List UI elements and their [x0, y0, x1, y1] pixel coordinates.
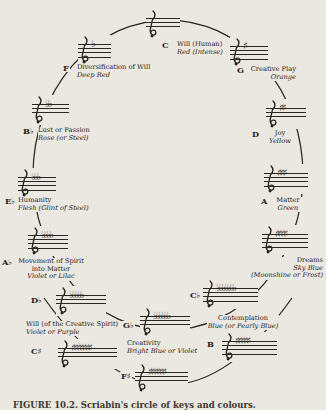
- key-letter-b-flat: B♭: [22, 127, 35, 135]
- key-signature-f-sharp: ♯♯♯♯♯♯: [148, 367, 165, 377]
- label-b-flat: Lust or Passion Rose (or Steel): [38, 127, 90, 142]
- staff-d-flat: ♭♭♭♭♭: [56, 286, 106, 316]
- key-letter-f: F: [62, 64, 70, 72]
- staff-a: ♯♯♯: [264, 164, 308, 194]
- staff-lines: [266, 108, 306, 122]
- label-f: Diversification of Will Deep Red: [77, 64, 150, 79]
- staff-e-flat: ♭♭♭: [18, 168, 56, 198]
- staff-lines: [146, 18, 180, 32]
- key-signature-a-flat: ♭♭♭♭: [41, 230, 52, 240]
- staff-f-sharp: ♯♯♯♯♯♯: [135, 363, 188, 393]
- staff-g-flat: ♭♭♭♭♭♭: [140, 307, 190, 337]
- key-letter-d-flat: D♭: [30, 296, 43, 304]
- key-signature-b: ♯♯♯♯♯: [235, 336, 249, 346]
- staff-c: [146, 9, 180, 39]
- key-signature-f: ♭: [91, 39, 94, 49]
- staff-c-flat: ♭♭♭♭♭♭♭: [203, 279, 258, 309]
- key-signature-b-flat: ♭♭: [45, 99, 50, 109]
- key-signature-c-sharp: ♯♯♯♯♯♯♯: [71, 343, 91, 353]
- key-letter-c: C: [161, 41, 170, 49]
- color-text: Orange: [250, 74, 296, 82]
- color-text: Rose (or Steel): [38, 135, 90, 143]
- staff-f: ♭: [78, 35, 111, 65]
- figure-caption: FIGURE 10.2. Scriabin's circle of keys a…: [13, 400, 319, 410]
- key-letter-c-sharp: C♯: [30, 347, 42, 355]
- key-letter-g-flat: G♭: [122, 321, 135, 329]
- color-text: Green: [272, 205, 304, 213]
- staff-a-flat: ♭♭♭♭: [28, 226, 68, 256]
- label-g: Creative Play Orange: [250, 66, 296, 81]
- key-letter-e-flat: E♭: [4, 197, 16, 205]
- staff-d: ♯♯: [266, 99, 306, 129]
- key-signature-d-flat: ♭♭♭♭♭: [69, 290, 83, 300]
- label-d: Joy Yellow: [266, 130, 294, 145]
- key-signature-e-flat: ♭♭♭: [31, 172, 39, 182]
- staff-lines: [222, 341, 277, 355]
- key-signature-a: ♯♯♯: [277, 168, 286, 178]
- staff-g: ♯: [230, 37, 268, 67]
- color-text: Flesh (Glint of Steel): [18, 205, 89, 213]
- color-text: Bright Blue or Violet: [127, 348, 197, 356]
- color-text: Violet or Purple: [26, 329, 118, 337]
- staff-e: ♯♯♯♯: [262, 225, 308, 255]
- label-a: Matter Green: [272, 197, 304, 212]
- staff-lines: [78, 44, 111, 58]
- label-a-flat: Movement of Spirit into Matter Violet or…: [15, 258, 87, 281]
- key-signature-e: ♯♯♯♯: [275, 229, 286, 239]
- label-e-flat: Humanity Flesh (Glint of Steel): [18, 197, 89, 212]
- label-c: Will (Human) Red (Intense): [177, 41, 223, 56]
- key-letter-g: G: [236, 66, 245, 74]
- staff-lines: [264, 173, 308, 187]
- color-text: Blue (or Pearly Blue): [207, 323, 279, 331]
- label-c-flat: Contemplation Blue (or Pearly Blue): [207, 315, 279, 330]
- staff-lines: [230, 46, 268, 60]
- color-text: Red (Intense): [177, 49, 223, 57]
- key-signature-d: ♯♯: [279, 103, 285, 113]
- staff-b-flat: ♭♭: [32, 95, 69, 125]
- key-letter-a: A: [260, 197, 268, 205]
- key-signature-c-flat: ♭♭♭♭♭♭♭: [216, 283, 235, 293]
- color-text: Violet or Lilac: [15, 273, 87, 281]
- label-e: Dreams Sky Blue (Moonshine or Frost): [243, 257, 323, 280]
- key-signature-g-flat: ♭♭♭♭♭♭: [153, 311, 169, 321]
- key-letter-a-flat: A♭: [1, 258, 13, 266]
- label-g-flat: Creativity Bright Blue or Violet: [127, 340, 197, 355]
- color-text: Yellow: [266, 138, 294, 146]
- staff-c-sharp: ♯♯♯♯♯♯♯: [58, 339, 117, 369]
- label-d-flat: Will (of the Creative Spirit) Violet or …: [26, 321, 118, 336]
- staff-lines: [32, 104, 69, 118]
- key-signature-g: ♯: [243, 41, 246, 51]
- key-letter-d: D: [251, 130, 260, 138]
- key-letter-c-flat: C♭: [189, 291, 201, 299]
- key-letter-b: B: [206, 340, 215, 348]
- staff-b: ♯♯♯♯♯: [222, 332, 277, 362]
- key-letter-f-sharp: F♯: [120, 372, 132, 380]
- color-text: Deep Red: [77, 72, 150, 80]
